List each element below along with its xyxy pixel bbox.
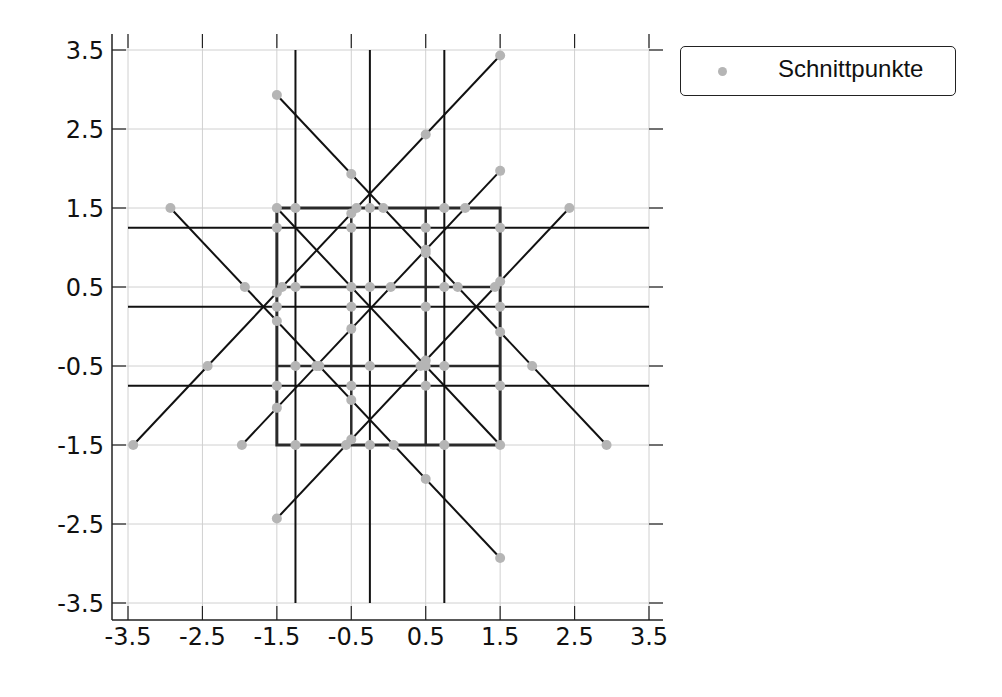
intersection-point	[389, 440, 399, 450]
intersection-point	[346, 282, 356, 292]
diagonal-line	[170, 208, 500, 558]
x-tick-label: -1.5	[253, 623, 300, 651]
intersection-point	[290, 203, 300, 213]
intersection-point	[386, 282, 396, 292]
plot-lines	[128, 50, 649, 603]
diagonal-line	[277, 208, 500, 445]
intersection-point	[272, 316, 282, 326]
intersection-point	[346, 169, 356, 179]
intersection-point	[272, 223, 282, 233]
intersection-point	[240, 282, 250, 292]
intersection-point	[439, 440, 449, 450]
intersection-point	[346, 209, 356, 219]
y-tick-label: -1.5	[57, 432, 104, 460]
intersection-point	[527, 361, 537, 371]
intersection-point	[439, 361, 449, 371]
intersection-point	[495, 223, 505, 233]
legend-marker-dot-icon	[718, 67, 727, 76]
chart-canvas: -3.5-2.5-1.5-0.50.51.52.53.5 -3.5-2.5-1.…	[0, 0, 1002, 697]
intersection-point	[346, 395, 356, 405]
x-tick-label: 3.5	[630, 623, 668, 651]
y-tick-label: 3.5	[66, 37, 104, 65]
intersection-point	[495, 51, 505, 61]
y-tick-label: 0.5	[66, 274, 104, 302]
intersection-point	[378, 203, 388, 213]
intersection-point	[365, 282, 375, 292]
intersection-point	[421, 355, 431, 365]
intersection-point	[495, 166, 505, 176]
intersection-point	[272, 513, 282, 523]
intersection-point	[495, 302, 505, 312]
intersection-point	[365, 361, 375, 371]
diagonal-line	[277, 95, 607, 445]
intersection-point	[495, 553, 505, 563]
intersection-point	[272, 90, 282, 100]
intersection-point	[290, 282, 300, 292]
intersection-point	[564, 203, 574, 213]
intersection-point	[453, 282, 463, 292]
intersection-point	[495, 440, 505, 450]
intersection-point	[602, 440, 612, 450]
legend: Schnittpunkte	[680, 46, 956, 96]
x-tick-label: 0.5	[407, 623, 445, 651]
intersection-point	[165, 203, 175, 213]
intersection-point	[439, 282, 449, 292]
intersection-point	[272, 302, 282, 312]
axes	[112, 34, 663, 620]
intersection-point	[272, 381, 282, 391]
x-tick-label: 1.5	[481, 623, 519, 651]
intersection-point	[290, 361, 300, 371]
intersection-point	[290, 440, 300, 450]
x-tick-label: 2.5	[555, 623, 593, 651]
intersection-point	[272, 288, 282, 298]
intersection-point	[272, 403, 282, 413]
intersection-point	[365, 203, 375, 213]
intersection-point	[439, 203, 449, 213]
intersection-point	[460, 203, 470, 213]
intersection-point	[421, 248, 431, 258]
intersection-point	[365, 440, 375, 450]
intersection-point	[237, 440, 247, 450]
intersection-point	[346, 434, 356, 444]
x-tick-label: -2.5	[179, 623, 226, 651]
intersection-point	[495, 327, 505, 337]
intersection-point	[272, 203, 282, 213]
intersection-point	[128, 440, 138, 450]
intersection-point	[421, 381, 431, 391]
y-tick-label: -0.5	[57, 353, 104, 381]
intersection-point	[421, 474, 431, 484]
intersection-point	[495, 276, 505, 286]
intersection-point	[421, 223, 431, 233]
intersection-point	[421, 302, 431, 312]
y-tick-label: 2.5	[66, 116, 104, 144]
intersection-point	[495, 381, 505, 391]
y-tick-label: -2.5	[57, 511, 104, 539]
gridlines	[112, 34, 663, 620]
intersection-point	[346, 381, 356, 391]
intersection-point	[203, 361, 213, 371]
y-tick-label: -3.5	[57, 590, 104, 618]
intersection-point	[346, 324, 356, 334]
x-tick-label: -0.5	[328, 623, 375, 651]
intersection-point	[421, 130, 431, 140]
intersection-point	[346, 302, 356, 312]
intersection-point	[314, 361, 324, 371]
legend-label: Schnittpunkte	[778, 55, 923, 83]
x-tick-labels: -3.5-2.5-1.5-0.50.51.52.53.5	[105, 623, 669, 651]
y-tick-labels: -3.5-2.5-1.5-0.50.51.52.53.5	[57, 37, 104, 618]
y-tick-label: 1.5	[66, 195, 104, 223]
intersection-point	[346, 223, 356, 233]
x-tick-label: -3.5	[105, 623, 152, 651]
